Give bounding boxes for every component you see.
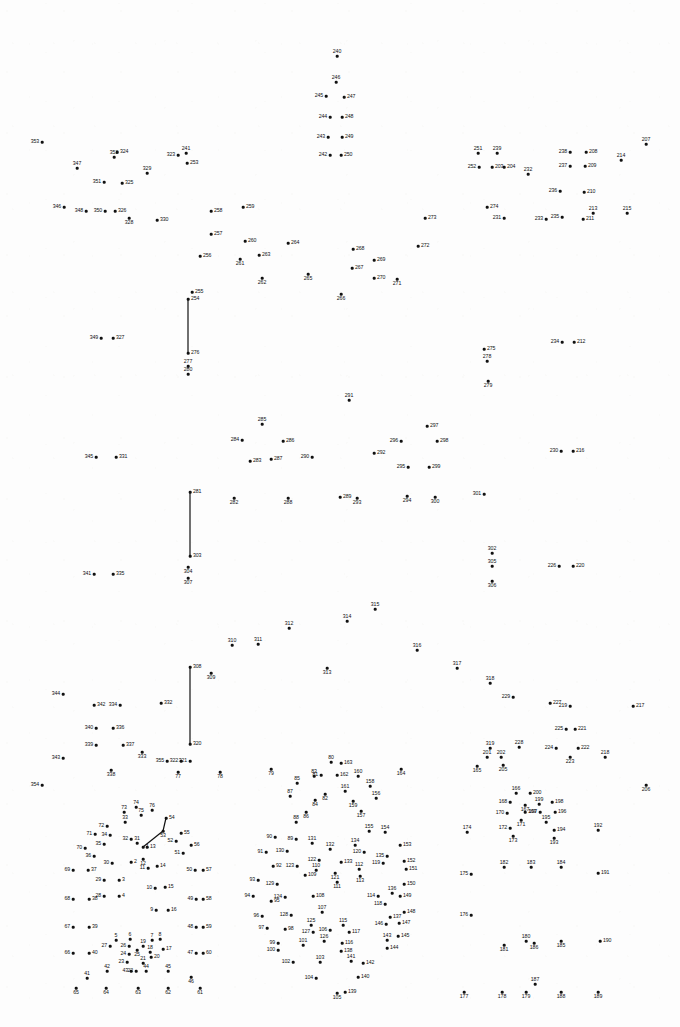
puzzle-dot-100[interactable] (277, 949, 280, 952)
puzzle-dot-319[interactable] (489, 747, 492, 750)
puzzle-dot-44[interactable] (145, 970, 148, 973)
puzzle-dot-101[interactable] (302, 944, 305, 947)
puzzle-dot-245[interactable] (325, 95, 328, 98)
puzzle-dot-150[interactable] (403, 883, 406, 886)
puzzle-dot-260[interactable] (244, 240, 247, 243)
puzzle-dot-208[interactable] (585, 151, 588, 154)
puzzle-dot-151[interactable] (405, 868, 408, 871)
puzzle-dot-298[interactable] (436, 440, 439, 443)
puzzle-dot-120[interactable] (363, 851, 366, 854)
puzzle-dot-323[interactable] (177, 154, 180, 157)
puzzle-dot-257[interactable] (210, 233, 213, 236)
puzzle-dot-81[interactable] (320, 774, 323, 777)
puzzle-dot-140[interactable] (357, 976, 360, 979)
puzzle-dot-33[interactable] (124, 821, 127, 824)
puzzle-dot-89[interactable] (295, 838, 298, 841)
puzzle-dot-355[interactable] (166, 760, 169, 763)
puzzle-dot-142[interactable] (362, 962, 365, 965)
puzzle-dot-326[interactable] (114, 210, 117, 213)
puzzle-dot-76[interactable] (151, 809, 154, 812)
puzzle-dot-258[interactable] (210, 210, 213, 213)
puzzle-dot-110[interactable] (315, 869, 318, 872)
puzzle-dot-93[interactable] (257, 879, 260, 882)
puzzle-dot-305[interactable] (491, 565, 494, 568)
puzzle-dot-267[interactable] (351, 267, 354, 270)
puzzle-dot-2[interactable] (130, 861, 133, 864)
puzzle-dot-218[interactable] (604, 756, 607, 759)
puzzle-dot-146[interactable] (385, 923, 388, 926)
puzzle-dot-289[interactable] (339, 496, 342, 499)
puzzle-dot-337[interactable] (122, 744, 125, 747)
puzzle-dot-237[interactable] (569, 165, 572, 168)
puzzle-dot-302[interactable] (491, 552, 494, 555)
puzzle-dot-272[interactable] (417, 245, 420, 248)
puzzle-dot-210[interactable] (583, 191, 586, 194)
puzzle-dot-41[interactable] (86, 977, 89, 980)
puzzle-dot-219[interactable] (569, 705, 572, 708)
puzzle-dot-197[interactable] (539, 811, 542, 814)
puzzle-dot-224[interactable] (555, 747, 558, 750)
puzzle-dot-278[interactable] (486, 360, 489, 363)
puzzle-dot-10[interactable] (154, 887, 157, 890)
puzzle-dot-152[interactable] (403, 860, 406, 863)
puzzle-dot-183[interactable] (530, 866, 533, 869)
puzzle-dot-32[interactable] (130, 838, 133, 841)
puzzle-dot-172[interactable] (509, 827, 512, 830)
puzzle-dot-154[interactable] (384, 831, 387, 834)
puzzle-dot-69[interactable] (72, 869, 75, 872)
puzzle-dot-325[interactable] (121, 182, 124, 185)
puzzle-dot-238[interactable] (569, 151, 572, 154)
puzzle-dot-169[interactable] (524, 811, 527, 814)
puzzle-dot-137[interactable] (389, 916, 392, 919)
puzzle-dot-174[interactable] (466, 831, 469, 834)
puzzle-dot-26[interactable] (128, 945, 131, 948)
puzzle-dot-335[interactable] (112, 573, 115, 576)
puzzle-dot-332[interactable] (160, 702, 163, 705)
puzzle-dot-27[interactable] (109, 945, 112, 948)
puzzle-dot-253[interactable] (186, 162, 189, 165)
puzzle-dot-330[interactable] (156, 219, 159, 222)
puzzle-dot-175[interactable] (470, 873, 473, 876)
puzzle-dot-49[interactable] (195, 898, 198, 901)
puzzle-dot-126[interactable] (323, 940, 326, 943)
puzzle-dot-236[interactable] (559, 190, 562, 193)
puzzle-dot-287[interactable] (270, 458, 273, 461)
puzzle-dot-70[interactable] (84, 847, 87, 850)
puzzle-dot-348[interactable] (85, 210, 88, 213)
puzzle-dot-259[interactable] (242, 206, 245, 209)
puzzle-dot-308[interactable] (189, 666, 192, 669)
puzzle-dot-104[interactable] (315, 977, 318, 980)
puzzle-dot-83[interactable] (313, 775, 316, 778)
puzzle-dot-216[interactable] (572, 450, 575, 453)
puzzle-dot-123[interactable] (296, 865, 299, 868)
puzzle-dot-145[interactable] (397, 935, 400, 938)
puzzle-dot-148[interactable] (403, 911, 406, 914)
puzzle-dot-239[interactable] (496, 152, 499, 155)
puzzle-dot-28[interactable] (103, 895, 106, 898)
puzzle-dot-114[interactable] (377, 895, 380, 898)
puzzle-dot-199[interactable] (538, 803, 541, 806)
puzzle-dot-350[interactable] (104, 210, 107, 213)
puzzle-dot-92[interactable] (272, 865, 275, 868)
puzzle-dot-80[interactable] (330, 761, 333, 764)
puzzle-dot-341[interactable] (93, 573, 96, 576)
puzzle-dot-246[interactable] (335, 81, 338, 84)
puzzle-dot-55[interactable] (180, 832, 183, 835)
puzzle-dot-128[interactable] (290, 914, 293, 917)
puzzle-dot-31[interactable] (136, 842, 139, 845)
puzzle-dot-14[interactable] (156, 865, 159, 868)
puzzle-dot-182[interactable] (503, 866, 506, 869)
puzzle-dot-156[interactable] (375, 797, 378, 800)
puzzle-dot-107[interactable] (321, 911, 324, 914)
puzzle-dot-71[interactable] (94, 833, 97, 836)
puzzle-dot-209[interactable] (584, 165, 587, 168)
puzzle-dot-73[interactable] (123, 811, 126, 814)
puzzle-dot-122[interactable] (318, 859, 321, 862)
puzzle-dot-317[interactable] (456, 667, 459, 670)
puzzle-dot-252[interactable] (478, 166, 481, 169)
puzzle-dot-310[interactable] (231, 644, 234, 647)
puzzle-dot-322[interactable] (180, 760, 183, 763)
puzzle-dot-43[interactable] (130, 970, 133, 973)
puzzle-dot-52[interactable] (175, 840, 178, 843)
puzzle-dot-233[interactable] (545, 218, 548, 221)
